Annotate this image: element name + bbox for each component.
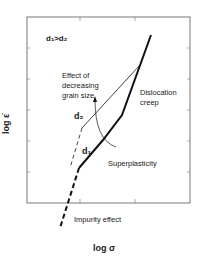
dislocation-label-2: creep <box>140 99 159 107</box>
d1-label: d₁ <box>82 147 91 156</box>
plot-frame <box>27 17 190 203</box>
x-axis-label: log σ <box>93 244 115 253</box>
effect-label-2: decreasing <box>62 82 99 90</box>
d2-label: d₂ <box>74 112 84 121</box>
y-ticks <box>27 48 190 172</box>
effect-label-3: grain size <box>62 92 94 100</box>
diagram-canvas <box>0 0 201 266</box>
superplasticity-label: Superplasticity <box>108 160 157 168</box>
d2-curve-dashed <box>70 128 82 168</box>
y-axis-label: log ε̇ <box>2 114 11 134</box>
x-ticks <box>80 17 135 203</box>
dislocation-label-1: Dislocation <box>140 89 177 97</box>
effect-arrow <box>95 100 116 147</box>
effect-label-1: Effect of <box>62 72 89 80</box>
impurity-label: Impurity effect <box>74 216 121 224</box>
condition-label: d₁>d₂ <box>46 35 67 43</box>
